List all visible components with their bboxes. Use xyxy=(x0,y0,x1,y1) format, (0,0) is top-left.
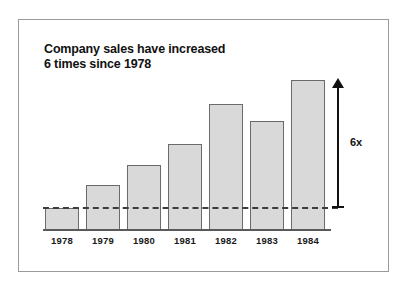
x-tick-label-1982: 1982 xyxy=(206,235,246,246)
x-tick-label-1983: 1983 xyxy=(247,235,287,246)
plot-area: 1978 1979 1980 1981 1982 1983 1984 6x xyxy=(0,0,407,290)
bar-1981 xyxy=(168,144,202,230)
reference-dashed-line xyxy=(43,207,338,209)
growth-arrow-shaft xyxy=(337,86,339,208)
chart-figure: Company sales have increased 6 times sin… xyxy=(0,0,407,290)
x-tick-label-1980: 1980 xyxy=(124,235,164,246)
growth-annotation-label: 6x xyxy=(350,136,362,148)
x-tick-label-1978: 1978 xyxy=(42,235,82,246)
bar-1983 xyxy=(250,121,284,230)
x-tick-label-1984: 1984 xyxy=(288,235,328,246)
x-tick-label-1981: 1981 xyxy=(165,235,205,246)
bar-1978 xyxy=(45,208,79,230)
x-axis-baseline xyxy=(43,229,331,231)
growth-arrow-foot xyxy=(332,206,344,208)
x-tick-label-1979: 1979 xyxy=(83,235,123,246)
bar-1982 xyxy=(209,104,243,230)
bar-1980 xyxy=(127,165,161,230)
